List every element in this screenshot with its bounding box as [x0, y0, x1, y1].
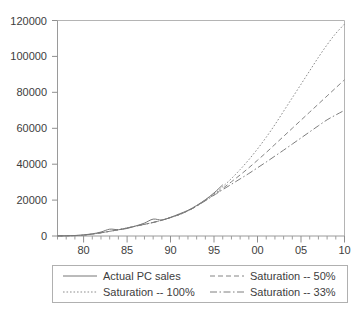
x-tick-label-2010: 10 — [338, 244, 350, 256]
legend-label-saturation-50: Saturation -- 50% — [250, 270, 336, 282]
x-tick-label-2000: 00 — [251, 244, 263, 256]
y-axis-ticks: 0 20000 40000 60000 80000 100000 120000 — [10, 15, 57, 243]
x-tick-label-2005: 05 — [295, 244, 307, 256]
x-tick-label-1985: 85 — [121, 244, 133, 256]
chart-figure: 0 20000 40000 60000 80000 100000 120000 … — [0, 0, 363, 313]
chart-legend: Actual PC sales Saturation -- 50% Satura… — [53, 266, 348, 303]
legend-label-actual-pc-sales: Actual PC sales — [103, 270, 181, 282]
legend-label-saturation-100: Saturation -- 100% — [103, 286, 195, 298]
x-tick-label-1990: 90 — [164, 244, 176, 256]
legend-label-saturation-33: Saturation -- 33% — [250, 286, 336, 298]
x-axis-minor-ticks — [58, 236, 336, 240]
y-tick-label-20000: 20000 — [16, 194, 47, 206]
x-tick-label-1995: 95 — [208, 244, 220, 256]
y-tick-label-40000: 40000 — [16, 158, 47, 170]
y-tick-label-80000: 80000 — [16, 86, 47, 98]
y-tick-label-0: 0 — [41, 230, 47, 242]
line-chart: 0 20000 40000 60000 80000 100000 120000 … — [0, 0, 363, 313]
x-tick-label-1980: 80 — [77, 244, 89, 256]
y-tick-label-100000: 100000 — [10, 50, 47, 62]
y-tick-label-60000: 60000 — [16, 122, 47, 134]
y-tick-label-120000: 120000 — [10, 15, 47, 27]
